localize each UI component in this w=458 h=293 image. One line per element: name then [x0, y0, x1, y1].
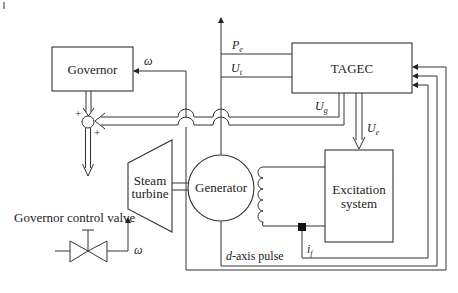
- excitation-system-block: Excitation system: [325, 150, 393, 242]
- excitation-label-2: system: [341, 196, 377, 211]
- plus-top: +: [75, 107, 81, 119]
- generator-block: Generator: [188, 155, 254, 221]
- ut-label: Ut: [231, 61, 243, 77]
- if-label: if: [307, 242, 314, 258]
- omega-bottom-label: ω: [134, 243, 142, 257]
- ut-signal-line: Ut: [221, 61, 292, 77]
- pe-signal-line: Pe: [221, 38, 292, 54]
- omega-feedback-line: ω: [134, 54, 186, 118]
- pe-label: Pe: [231, 38, 243, 54]
- ug-label: Ug: [315, 99, 328, 115]
- steam-turbine-label-2: turbine: [132, 186, 169, 201]
- control-diagram: Governor ω + + Ug Pe Ut: [0, 0, 458, 293]
- generator-label: Generator: [195, 180, 248, 195]
- governor-output-arrow: [83, 91, 94, 116]
- d-axis-label: d-axis pulse: [226, 249, 284, 263]
- sum-output-arrow: [83, 128, 94, 176]
- excitation-label-1: Excitation: [332, 182, 386, 197]
- governor-control-valve: Governor control valve ω: [14, 210, 142, 262]
- ue-signal-arrow: Ue: [353, 93, 380, 149]
- plus-bottom: +: [94, 126, 100, 138]
- omega-top-label: ω: [144, 54, 152, 68]
- field-winding-coil: [258, 167, 325, 231]
- ue-label: Ue: [367, 121, 380, 137]
- ug-signal-line: Ug: [95, 93, 344, 129]
- governor-label: Governor: [68, 62, 118, 77]
- current-sensor: [298, 223, 306, 231]
- valve-label: Governor control valve: [14, 210, 136, 225]
- governor-block: Governor: [52, 47, 133, 91]
- tagec-label: TAGEC: [331, 61, 373, 76]
- tagec-block: TAGEC: [292, 43, 412, 93]
